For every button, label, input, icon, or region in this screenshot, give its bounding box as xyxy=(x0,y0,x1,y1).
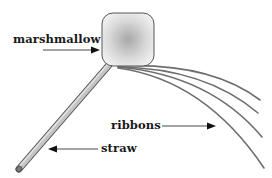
straw-arrow xyxy=(48,146,98,153)
ribbon-2 xyxy=(118,67,258,113)
ribbons xyxy=(118,66,264,168)
marshmallow-arrow xyxy=(43,47,100,54)
marshmallow xyxy=(102,13,154,66)
straw xyxy=(15,64,109,173)
ribbons-label: ribbons xyxy=(111,118,161,132)
straw-label: straw xyxy=(101,141,137,155)
marshmallow-label: marshmallow xyxy=(13,32,101,46)
ribbons-arrow xyxy=(162,123,216,130)
